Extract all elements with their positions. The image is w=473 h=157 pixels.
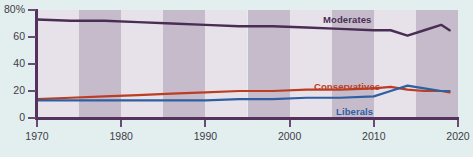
y-axis-tick-label: 80% — [0, 3, 25, 15]
x-axis-tick — [120, 120, 122, 127]
y-axis-tick-label: 40 — [0, 57, 25, 69]
y-axis-tick — [28, 90, 36, 92]
y-axis-tick — [28, 9, 36, 11]
x-axis-tick-label: 1990 — [194, 130, 217, 142]
series-lines — [37, 10, 458, 118]
x-axis-tick — [373, 120, 375, 127]
x-axis-tick-label: 2020 — [446, 130, 469, 142]
series-label-conservatives: Conservatives — [314, 81, 380, 92]
series-label-moderates: Moderates — [323, 14, 371, 25]
x-axis-tick-label: 1980 — [110, 130, 133, 142]
x-axis-line — [35, 117, 459, 120]
line-moderates — [37, 19, 450, 35]
x-axis-tick — [289, 120, 291, 127]
x-axis-tick — [204, 120, 206, 127]
y-axis-tick — [28, 36, 36, 38]
x-axis-tick — [36, 120, 38, 127]
y-axis-tick-label: 60 — [0, 30, 25, 42]
series-label-liberals: Liberals — [336, 106, 373, 117]
line-chart: 80%6040200 197019801990200020102020 Mode… — [0, 0, 473, 157]
y-axis-tick — [28, 63, 36, 65]
y-axis-tick-label: 20 — [0, 84, 25, 96]
x-axis-tick — [457, 120, 459, 127]
x-axis-tick-label: 2000 — [278, 130, 301, 142]
x-axis-tick-label: 2010 — [362, 130, 385, 142]
y-axis-tick — [28, 117, 36, 119]
y-axis-tick-label: 0 — [0, 111, 25, 123]
plot-area — [37, 10, 458, 118]
x-axis-tick-label: 1970 — [25, 130, 48, 142]
